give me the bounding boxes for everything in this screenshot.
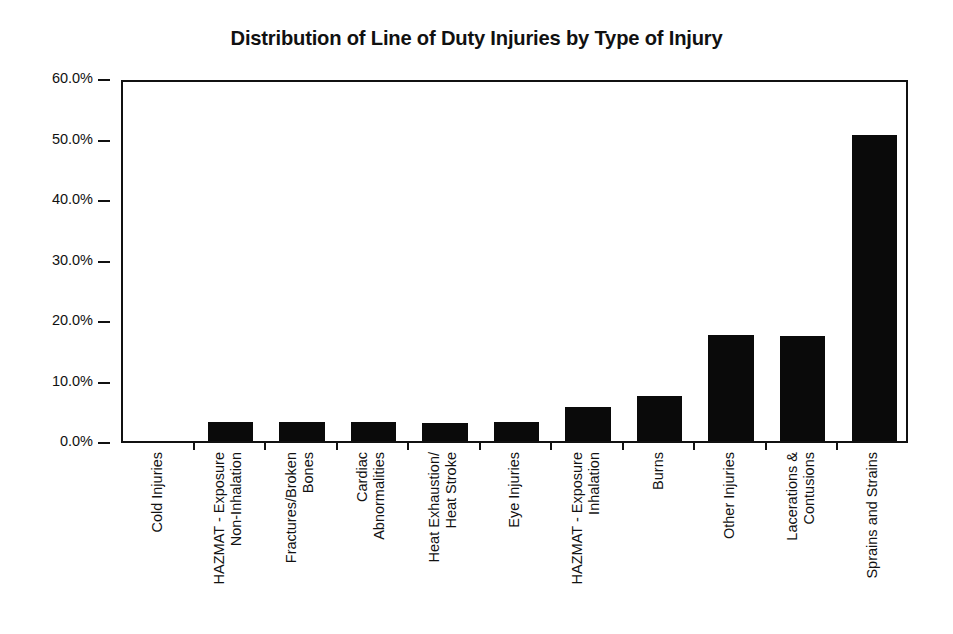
bar [422,423,467,441]
y-axis-tick-label: 60.0% [52,70,93,86]
y-axis-tick-label: 30.0% [52,252,93,268]
x-axis-label-text: Heat Exhaustion/Heat Stroke [426,452,460,562]
x-axis-label-text: Eye Injuries [506,452,523,528]
x-axis-label-text: HAZMAT - ExposureInhalation [569,452,603,584]
x-axis-label-line: Abnormalities [371,452,388,540]
x-axis-label-line: Heat Exhaustion/ [426,452,443,562]
bar [708,335,753,441]
x-axis-label-text: Cold Injuries [148,452,165,533]
x-axis-label: Eye Injuries [479,452,551,634]
y-axis-tick-label: 10.0% [52,373,93,389]
x-axis-label-text: Sprains and Strains [864,452,881,579]
bar [780,336,825,441]
x-axis-tick-mark [836,441,838,450]
x-axis-label-text: Burns [649,452,666,490]
chart-title: Distribution of Line of Duty Injuries by… [19,26,934,50]
x-axis-label: Burns [622,452,694,634]
x-axis-label: Cold Injuries [121,452,193,634]
x-axis-ticks [121,441,908,451]
bar [565,407,610,441]
x-axis-label: Other Injuries [693,452,765,634]
x-axis-label-text: Other Injuries [721,452,738,539]
x-axis-label-line: Heat Stroke [443,452,460,562]
x-axis-label-line: Burns [649,452,666,490]
x-axis-label-line: HAZMAT - Exposure [211,452,228,584]
bar [351,422,396,441]
x-axis-label-line: Cardiac [354,452,371,540]
x-axis-label-text: Fractures/BrokenBones [283,452,317,563]
x-axis-label: CardiacAbnormalities [336,452,408,634]
x-axis-label-line: Sprains and Strains [864,452,881,579]
y-axis-tick-mark [98,321,110,323]
x-axis-tick-mark [264,441,266,450]
x-axis-tick-mark [479,441,481,450]
plot-area [121,80,908,443]
y-axis-tick-label: 0.0% [60,433,93,449]
x-axis-labels: Cold InjuriesHAZMAT - ExposureNon-Inhala… [121,452,908,634]
bar [279,422,324,441]
bar [637,396,682,441]
x-axis-label-line: Inhalation [586,452,603,584]
y-axis-tick-label: 50.0% [52,131,93,147]
x-axis-tick-mark [193,441,195,450]
x-axis-label-line: Non-Inhalation [228,452,245,584]
bar [852,135,897,441]
x-axis-label-text: Lacerations &Contusions [784,452,818,541]
y-axis-tick-label: 40.0% [52,191,93,207]
x-axis-label: HAZMAT - ExposureNon-Inhalation [193,452,265,634]
x-axis-label-text: HAZMAT - ExposureNon-Inhalation [211,452,245,584]
x-axis-label: HAZMAT - ExposureInhalation [550,452,622,634]
bars-layer [121,80,908,443]
y-axis-tick-mark [98,79,110,81]
x-axis-label-line: HAZMAT - Exposure [569,452,586,584]
x-axis-tick-mark [765,441,767,450]
y-axis-tick-mark [98,382,110,384]
x-axis-label-line: Other Injuries [721,452,738,539]
x-axis-label: Lacerations &Contusions [765,452,837,634]
bar [494,422,539,441]
x-axis-label-line: Eye Injuries [506,452,523,528]
x-axis-tick-mark [693,441,695,450]
x-axis-label: Heat Exhaustion/Heat Stroke [407,452,479,634]
bar [208,422,253,441]
x-axis-label-line: Lacerations & [784,452,801,541]
y-axis-tick-mark [98,261,110,263]
x-axis-tick-mark [407,441,409,450]
x-axis-label-text: CardiacAbnormalities [354,452,388,540]
y-axis-tick-mark [98,140,110,142]
x-axis-tick-mark [550,441,552,450]
x-axis-tick-mark [336,441,338,450]
x-axis-label: Sprains and Strains [836,452,908,634]
x-axis-label-line: Bones [300,452,317,563]
x-axis-label-line: Fractures/Broken [283,452,300,563]
x-axis-label-line: Cold Injuries [148,452,165,533]
x-axis-label: Fractures/BrokenBones [264,452,336,634]
y-axis-tick-mark [98,442,110,444]
x-axis-tick-mark [622,441,624,450]
y-axis: 60.0%50.0%40.0%30.0%20.0%10.0%0.0% [0,0,121,634]
x-axis-label-line: Contusions [801,452,818,541]
y-axis-tick-label: 20.0% [52,312,93,328]
y-axis-tick-mark [98,200,110,202]
